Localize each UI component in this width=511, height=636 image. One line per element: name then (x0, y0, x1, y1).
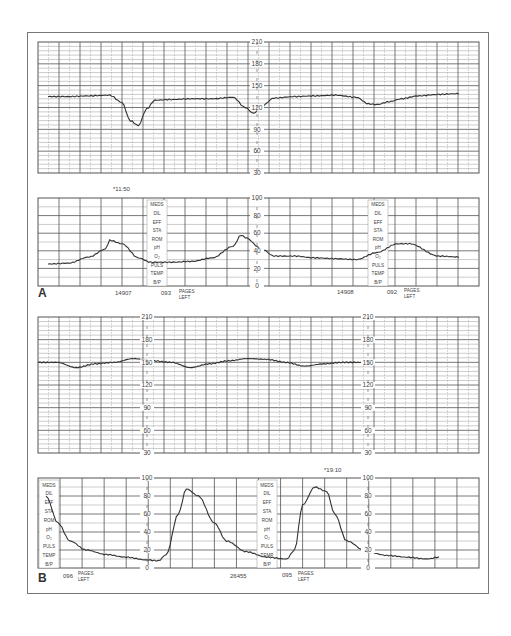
svg-text:PULS: PULS (43, 544, 55, 549)
panel-label-a: A (38, 286, 47, 300)
svg-text:O₂: O₂ (46, 535, 52, 540)
svg-text:DIL: DIL (153, 211, 161, 216)
svg-text:STA: STA (153, 228, 163, 233)
svg-text:PAGES: PAGES (404, 288, 420, 293)
svg-text:MEDS: MEDS (260, 483, 273, 488)
svg-text:PAGES: PAGES (179, 289, 195, 294)
svg-text:DIL: DIL (45, 491, 53, 496)
time-mark-b: *19:10 (324, 467, 341, 473)
svg-text:EFF: EFF (374, 220, 383, 225)
svg-text:MEDS: MEDS (150, 202, 163, 207)
footer-b-26455: 26455 (230, 573, 247, 579)
strip-b-uc-axis-2: 100806040200 (361, 474, 375, 571)
svg-text:B/P: B/P (153, 280, 160, 285)
svg-text:MEDS: MEDS (371, 202, 384, 207)
strip-b-uc-axis-1: 100806040200 (140, 474, 154, 571)
svg-text:LEFT: LEFT (298, 577, 309, 582)
svg-text:O₂: O₂ (375, 254, 381, 259)
svg-text:90: 90 (253, 126, 261, 133)
svg-text:STA: STA (374, 228, 384, 233)
svg-text:pH: pH (154, 245, 160, 250)
svg-text:TEMP: TEMP (151, 271, 164, 276)
time-mark-a: *11:50 (113, 186, 130, 192)
svg-text:pH: pH (46, 527, 52, 532)
svg-text:EFF: EFF (263, 500, 272, 505)
strip-b-label-column-2: MEDSDILEFFSTAROMpHO₂PULSTEMPB/P (257, 480, 277, 568)
svg-text:0: 0 (366, 564, 370, 571)
strip-b-pages-left-2: PAGESLEFT (298, 571, 314, 582)
svg-text:B/P: B/P (374, 280, 381, 285)
svg-text:STA: STA (263, 509, 273, 514)
svg-text:0: 0 (255, 282, 259, 289)
svg-text:DIL: DIL (374, 211, 382, 216)
svg-text:pH: pH (264, 527, 270, 532)
svg-text:0: 0 (145, 564, 149, 571)
strip-b-label-column-1: MEDSDILEFFSTAROMpHO₂PULSTEMPB/P (39, 480, 59, 568)
svg-text:LEFT: LEFT (179, 295, 190, 300)
strip-a-label-column-2: MEDSDILEFFSTAROMpHO₂PULSTEMPB/P (368, 200, 388, 286)
svg-text:TEMP: TEMP (43, 553, 56, 558)
footer-a-092: 092 (387, 289, 397, 295)
svg-text:ROM: ROM (44, 518, 55, 523)
footer-a-14908: 14908 (337, 289, 354, 295)
strip-b-fhr-grid (38, 317, 479, 453)
panel-label-b: B (38, 571, 47, 585)
strip-b-pages-left-1: PAGESLEFT (78, 571, 94, 582)
svg-text:PULS: PULS (261, 544, 273, 549)
strip-a-label-column-1: MEDSDILEFFSTAROMpHO₂PULSTEMPB/P (147, 200, 167, 286)
footer-a-093: 093 (161, 290, 171, 296)
svg-text:B/P: B/P (263, 562, 270, 567)
svg-text:ROM: ROM (262, 518, 273, 523)
strip-b-fhr-trace (38, 358, 362, 367)
svg-text:ROM: ROM (373, 237, 384, 242)
svg-text:O₂: O₂ (264, 535, 270, 540)
svg-text:MEDS: MEDS (42, 483, 55, 488)
svg-text:DIL: DIL (263, 491, 271, 496)
fetal-monitor-strips: 210180150120906030MEDSDILEFFSTAROMpHO₂PU… (0, 0, 511, 636)
svg-text:PAGES: PAGES (298, 571, 314, 576)
svg-text:PAGES: PAGES (78, 571, 94, 576)
svg-text:pH: pH (375, 245, 381, 250)
svg-text:ROM: ROM (152, 237, 163, 242)
footer-b-095: 095 (282, 572, 292, 578)
footer-b-096: 096 (63, 573, 73, 579)
svg-text:LEFT: LEFT (404, 294, 415, 299)
footer-a-14907: 14907 (115, 290, 132, 296)
svg-text:TEMP: TEMP (372, 271, 385, 276)
svg-text:B/P: B/P (45, 562, 52, 567)
strip-a-pages-left-2: PAGESLEFT (404, 288, 420, 299)
svg-text:PULS: PULS (372, 263, 384, 268)
svg-text:O₂: O₂ (154, 254, 160, 259)
strip-a-pages-left-1: PAGESLEFT (179, 289, 195, 300)
svg-text:LEFT: LEFT (78, 577, 89, 582)
svg-text:PULS: PULS (151, 263, 163, 268)
svg-text:EFF: EFF (153, 220, 162, 225)
